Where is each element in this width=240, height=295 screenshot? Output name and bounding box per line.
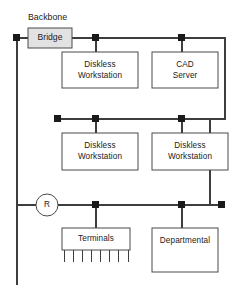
bridge-box[interactable] [28, 28, 72, 48]
box-diskless-workstation-3[interactable] [152, 133, 228, 170]
node-bot-left [92, 201, 99, 208]
box-cad-server[interactable] [152, 52, 218, 88]
node-top-right [178, 34, 185, 41]
node-top-left [13, 34, 20, 41]
box-terminals[interactable] [62, 228, 130, 250]
box-diskless-workstation-2[interactable] [62, 133, 138, 170]
network-topology-diagram: Backbone Bridge R Diskless Workstation C… [0, 0, 240, 295]
node-top-mid [92, 34, 99, 41]
node-mid-right [178, 115, 185, 122]
diagram-canvas [0, 0, 240, 295]
node-bot-end [218, 201, 225, 208]
node-bot-mid [178, 201, 185, 208]
node-mid-left [54, 115, 61, 122]
box-diskless-workstation-1[interactable] [62, 52, 138, 88]
box-departmental[interactable] [152, 228, 218, 272]
router-circle[interactable] [36, 194, 58, 216]
terminals-comb [64, 250, 128, 262]
node-mid-center [92, 115, 99, 122]
